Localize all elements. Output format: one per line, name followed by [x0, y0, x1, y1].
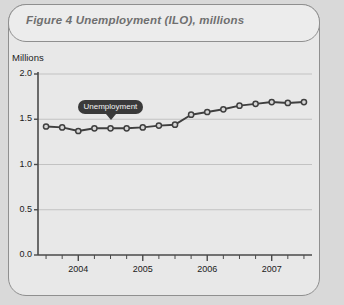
y-axis-tick-label: 0.5: [6, 204, 32, 214]
x-axis-tick-label: 2006: [187, 264, 227, 274]
y-axis-tick-label: 1.5: [6, 113, 32, 123]
x-axis-tick-label: 2004: [58, 264, 98, 274]
series-callout-label: Unemployment: [78, 100, 144, 113]
y-axis-tick-label: 1.0: [6, 159, 32, 169]
x-axis-tick-label: 2005: [123, 264, 163, 274]
figure-card-root: Figure 4 Unemployment (ILO), millions Mi…: [0, 0, 344, 305]
y-axis-tick-label: 0.0: [6, 249, 32, 259]
figure-card-body: [8, 4, 320, 296]
x-axis-tick-label: 2007: [252, 264, 292, 274]
series-callout-pointer: [106, 114, 116, 120]
figure-title: Figure 4 Unemployment (ILO), millions: [26, 14, 244, 26]
y-axis-title: Millions: [12, 52, 44, 63]
y-axis-tick-label: 2.0: [6, 68, 32, 78]
